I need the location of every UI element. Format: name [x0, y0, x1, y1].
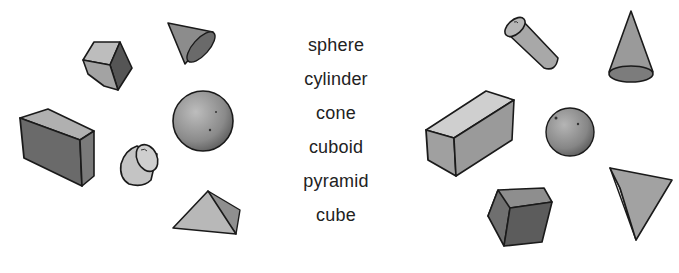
- left-shapes-group: [0, 0, 260, 273]
- cuboid-shape-left: [18, 106, 98, 188]
- cylinder-shape-left: [117, 140, 167, 190]
- pyramid-shape-right: [606, 164, 676, 244]
- cone-shape-right: [606, 8, 656, 86]
- pyramid-shape-left: [170, 188, 244, 238]
- sphere-shape-right: [544, 106, 596, 158]
- word-pyramid: pyramid: [276, 164, 396, 198]
- cylinder-shape-right: [500, 14, 562, 72]
- word-cylinder: cylinder: [276, 62, 396, 96]
- cuboid-shape-right: [424, 88, 516, 180]
- sphere-shape-left: [170, 88, 236, 154]
- cube-shape-right: [484, 186, 556, 250]
- word-cone: cone: [276, 96, 396, 130]
- cube-shape-left: [80, 38, 136, 96]
- right-shapes-group: [420, 0, 679, 273]
- cone-shape-left: [165, 20, 217, 68]
- word-cube: cube: [276, 198, 396, 232]
- word-sphere: sphere: [276, 28, 396, 62]
- word-cuboid: cuboid: [276, 130, 396, 164]
- shape-names-list: sphere cylinder cone cuboid pyramid cube: [276, 28, 396, 232]
